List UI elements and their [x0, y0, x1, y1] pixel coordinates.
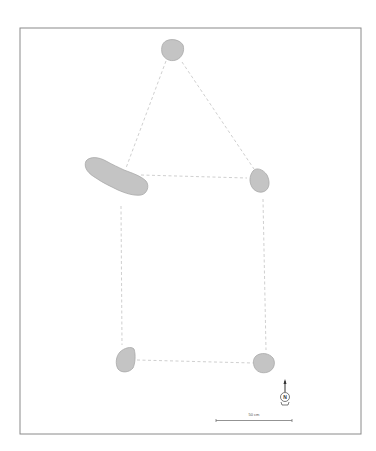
stone-top	[162, 40, 184, 61]
stone-bottom-right	[253, 354, 274, 373]
scale-bar-label: 50 cm	[249, 412, 261, 417]
plan-frame	[20, 28, 361, 434]
site-plan: N 50 cm	[0, 0, 376, 451]
north-label: N	[283, 394, 287, 400]
